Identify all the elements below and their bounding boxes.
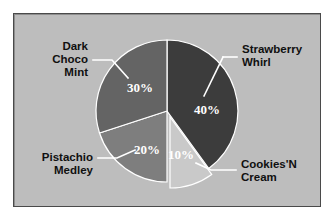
callout-label-dark-choco-mint-line1: Dark [62, 40, 88, 52]
callout-label-strawberry-whirl-line2: Whirl [242, 56, 271, 68]
callout-label-dark-choco-mint-line3: Mint [64, 66, 88, 78]
slice-value-strawberry-whirl: 40% [194, 102, 220, 117]
callout-label-pistachio-medley-line2: Medley [54, 164, 94, 176]
callout-label-strawberry-whirl-line1: Strawberry [242, 43, 303, 55]
slice-value-pistachio-medley: 20% [134, 142, 160, 157]
slice-value-dark-choco-mint: 30% [127, 80, 153, 95]
callout-label-pistachio-medley-line1: Pistachio [42, 151, 93, 163]
slice-value-cookies-n-cream: 10% [168, 147, 194, 162]
callout-label-cookies-n-cream-line1: Cookies'N [241, 158, 297, 170]
callout-label-cookies-n-cream-line2: Cream [241, 171, 277, 183]
pie-chart-svg: 40% 10% 20% 30% Strawberry Whirl Cookies… [0, 0, 336, 223]
callout-label-dark-choco-mint-line2: Choco [52, 53, 88, 65]
pie-chart-figure: 40% 10% 20% 30% Strawberry Whirl Cookies… [0, 0, 336, 223]
